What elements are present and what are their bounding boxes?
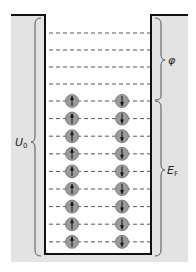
potential-well-diagram: φ U0 EF bbox=[0, 0, 196, 272]
right-wall-region bbox=[151, 15, 188, 262]
electron-spin-up bbox=[66, 147, 79, 160]
electron-spin-down bbox=[116, 200, 129, 213]
electron-spin-up bbox=[66, 130, 79, 143]
electron-spin-up bbox=[66, 112, 79, 125]
electron-spin-down bbox=[116, 183, 129, 196]
electron-spin-down bbox=[116, 218, 129, 231]
electron-spin-up bbox=[66, 218, 79, 231]
electron-spin-down bbox=[116, 112, 129, 125]
electron-spin-down bbox=[116, 95, 129, 108]
electron-spin-down bbox=[116, 235, 129, 248]
work-function-label: φ bbox=[168, 54, 176, 67]
electron-spin-down bbox=[116, 130, 129, 143]
well-interior bbox=[45, 15, 151, 254]
electron-spin-down bbox=[116, 147, 129, 160]
electron-spin-up bbox=[66, 235, 79, 248]
electron-spin-up bbox=[66, 183, 79, 196]
electron-spin-up bbox=[66, 200, 79, 213]
electron-spin-up bbox=[66, 165, 79, 178]
electron-spin-up bbox=[66, 95, 79, 108]
electron-spin-down bbox=[116, 165, 129, 178]
